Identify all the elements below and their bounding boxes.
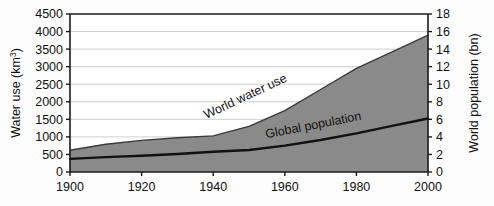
x-axis-tick-label: 1900 [56, 180, 84, 194]
left-axis-title: Water use (km3) [8, 48, 23, 138]
right-axis-tick-label: 18 [436, 7, 450, 21]
right-axis-tick-label: 8 [436, 95, 443, 109]
left-axis-tick-label: 2000 [35, 95, 63, 109]
chart-svg: 050010001500200025003000350040004500 024… [0, 0, 494, 206]
right-axis-tick-label: 14 [436, 43, 450, 57]
x-axis-tick-label: 1940 [199, 180, 227, 194]
right-axis-title: World population (bn) [467, 33, 481, 152]
left-axis-tick-label: 3000 [35, 60, 63, 74]
left-axis-tick-label: 0 [56, 165, 63, 179]
left-axis-tick-label: 2500 [35, 78, 63, 92]
right-axis-tick-label: 16 [436, 25, 450, 39]
left-axis-tick-label: 500 [42, 148, 63, 162]
left-axis-tick-label: 4000 [35, 25, 63, 39]
left-axis-tick-label: 4500 [35, 7, 63, 21]
right-axis-tick-label: 12 [436, 60, 450, 74]
left-axis-tick-label: 3500 [35, 43, 63, 57]
right-axis-tick-label: 10 [436, 78, 450, 92]
x-axis-tick-label: 1980 [342, 180, 370, 194]
right-axis-tick-label: 4 [436, 130, 443, 144]
left-axis-tick-label: 1500 [35, 113, 63, 127]
right-axis-tick-label: 6 [436, 113, 443, 127]
left-axis-tick-label: 1000 [35, 130, 63, 144]
right-axis-tick-label: 0 [436, 165, 443, 179]
x-axis-tick-label: 1960 [271, 180, 299, 194]
right-axis-tick-label: 2 [436, 148, 443, 162]
x-axis-tick-label: 1920 [128, 180, 156, 194]
chart-figure: 050010001500200025003000350040004500 024… [0, 0, 494, 206]
x-axis-tick-label: 2000 [414, 180, 442, 194]
